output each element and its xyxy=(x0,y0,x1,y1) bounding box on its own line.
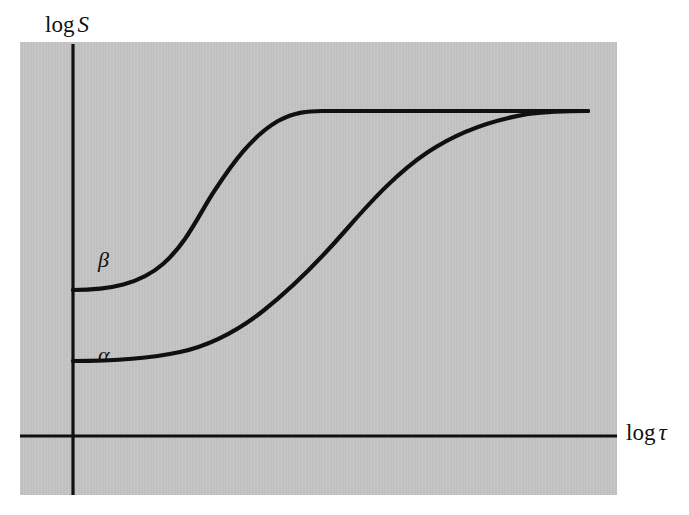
y-axis-label: logS xyxy=(45,13,89,36)
x-axis-label-prefix: log xyxy=(626,420,655,445)
alpha-curve xyxy=(73,111,588,361)
figure-container: logS logτ β α xyxy=(0,0,689,515)
beta-curve-label: β xyxy=(98,249,109,271)
x-axis-label-variable: τ xyxy=(655,420,666,445)
y-axis-label-variable: S xyxy=(74,12,89,37)
x-axis-label: logτ xyxy=(626,421,667,444)
y-axis-label-prefix: log xyxy=(45,12,74,37)
alpha-curve-label: α xyxy=(98,344,110,366)
beta-curve xyxy=(73,111,588,290)
